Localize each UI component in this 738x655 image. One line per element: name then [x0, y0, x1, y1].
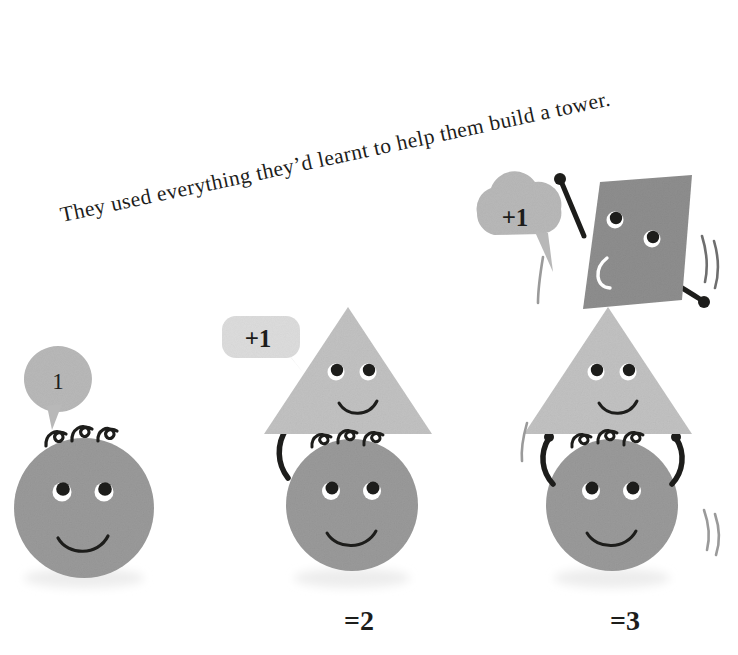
circle-head: [546, 439, 678, 571]
bubble-label-two: +1: [245, 325, 272, 352]
square-hand-right: [698, 296, 710, 308]
square-arm-left: [561, 181, 584, 236]
bubble-tail: [47, 404, 62, 430]
figure-three: +1: [477, 171, 719, 636]
illustration-canvas: They used everything they’d learnt to he…: [0, 0, 738, 655]
speech-bubble-one: 1: [24, 346, 92, 430]
total-label-three: =3: [610, 605, 640, 636]
bubble-label-one: 1: [52, 369, 64, 394]
head-arm-left: [543, 438, 553, 484]
figure-two: +1: [222, 307, 432, 636]
speech-bubble-two: +1: [222, 316, 305, 375]
motion-lines-right: [702, 236, 718, 288]
illustration-svg: They used everything they’d learnt to he…: [0, 0, 738, 655]
total-label-two: =2: [344, 605, 374, 636]
arm-left: [279, 428, 288, 478]
figure-one: 1: [14, 346, 154, 588]
triangle: [524, 307, 692, 434]
motion-line-left: [538, 257, 543, 303]
bubble-tail: [535, 232, 553, 272]
head-arm-right: [672, 438, 682, 484]
circle-head: [14, 438, 154, 578]
speech-bubble-three: +1: [477, 171, 562, 272]
bubble-label-three: +1: [502, 204, 529, 231]
circle-head: [286, 439, 418, 571]
square-hand-left: [554, 173, 566, 185]
tilted-square: [583, 175, 692, 309]
